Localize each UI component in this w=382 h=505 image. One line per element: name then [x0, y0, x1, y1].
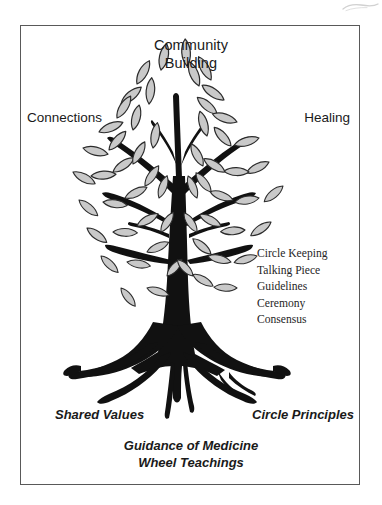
scanner-squiggle-icon [342, 2, 380, 13]
list-item: Consensus [257, 312, 328, 329]
list-item: Circle Keeping [257, 246, 328, 263]
tree-leaves [71, 39, 285, 309]
diagram-frame: Community Building Connections Healing C… [20, 25, 360, 485]
canopy-left-label: Connections [27, 110, 102, 126]
list-item: Ceremony [257, 296, 328, 313]
branch-practices-list: Circle Keeping Talking Piece Guidelines … [257, 246, 328, 329]
page-canvas: Community Building Connections Healing C… [0, 0, 382, 505]
roots-bottom-label: Guidance of Medicine Wheel Teachings [21, 438, 361, 472]
roots-left-label: Shared Values [55, 407, 144, 423]
canopy-right-label: Healing [304, 110, 350, 126]
list-item: Guidelines [257, 279, 328, 296]
list-item: Talking Piece [257, 263, 328, 280]
roots-right-label: Circle Principles [252, 407, 354, 423]
canopy-top-label: Community Building [21, 37, 361, 72]
